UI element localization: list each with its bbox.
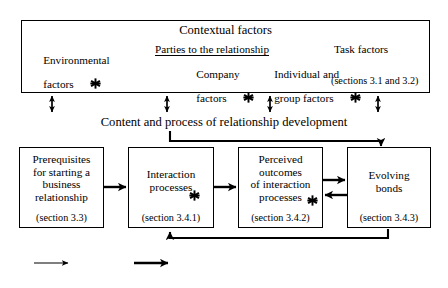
individual-line1: Individual and: [274, 68, 339, 80]
contextual-title: Contextual factors: [22, 24, 429, 37]
star-icon: [227, 92, 255, 103]
individual-group-factors-label: Individual and group factors: [263, 58, 361, 116]
task-factors-label: Task factors: [334, 44, 388, 55]
interaction-processes-box: Interaction processes (section 3.4.1): [128, 147, 214, 228]
interaction-title: Interaction processes: [129, 168, 213, 193]
star-icon: [74, 78, 102, 89]
environmental-factors-label: Environmental factors: [32, 44, 110, 102]
legend: denotes influence denotes temporal order…: [0, 252, 448, 288]
environmental-line1: Environmental: [43, 54, 110, 66]
perceived-outcomes-box: Perceived outcomes of interaction proces…: [238, 147, 323, 228]
company-line2: factors: [196, 92, 226, 104]
star-icon: [334, 92, 362, 103]
prerequisites-box: Prerequisites for starting a business re…: [19, 147, 104, 228]
star-icon: [189, 187, 200, 205]
prerequisites-title: Prerequisites for starting a business re…: [20, 153, 103, 203]
content-to-boxes-bracket: [170, 131, 381, 146]
evolving-title: Evolving bonds: [348, 169, 430, 194]
company-factors-label: Company factors: [185, 58, 254, 116]
star-icon: [307, 192, 318, 210]
company-line1: Company: [196, 68, 240, 80]
contextual-sections-ref: (sections 3.1 and 3.2): [331, 76, 418, 86]
prerequisites-section: (section 3.3): [20, 212, 103, 223]
content-process-label: Content and process of relationship deve…: [0, 116, 448, 129]
environmental-line2: factors: [43, 78, 73, 90]
individual-line2: group factors: [274, 92, 333, 104]
diagram-canvas: Contextual factors Environmental factors…: [0, 0, 448, 288]
parties-heading: Parties to the relationship: [155, 44, 269, 55]
evolving-section: (section 3.4.3): [348, 212, 430, 223]
feedback-loop-arrow: [170, 229, 388, 238]
perceived-section: (section 3.4.2): [239, 212, 322, 223]
evolving-bonds-box: Evolving bonds (section 3.4.3): [347, 147, 431, 228]
interaction-section: (section 3.4.1): [129, 212, 213, 223]
